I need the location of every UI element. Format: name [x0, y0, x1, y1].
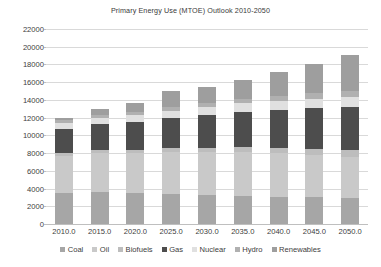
x-tick-label: 2050.0 — [338, 227, 361, 236]
bar-segment-oil[interactable] — [234, 152, 252, 195]
bar-column[interactable] — [126, 103, 144, 224]
bar-segment-gas[interactable] — [234, 112, 252, 147]
legend-item-oil[interactable]: Oil — [92, 245, 109, 254]
bar-segment-gas[interactable] — [341, 107, 359, 150]
y-tick-label: 12000 — [2, 113, 44, 122]
bar-segment-oil[interactable] — [126, 153, 144, 193]
bar-segment-coal[interactable] — [234, 196, 252, 224]
bar-segment-nuclear[interactable] — [91, 118, 109, 125]
legend-swatch-icon — [235, 247, 240, 252]
legend-label: Nuclear — [200, 245, 226, 254]
bar-segment-oil[interactable] — [162, 152, 180, 194]
bar-segment-coal[interactable] — [305, 197, 323, 224]
bar-segment-oil[interactable] — [341, 157, 359, 199]
bar-column[interactable] — [162, 91, 180, 224]
y-tick-label: 22000 — [2, 25, 44, 34]
y-tick-label: 20000 — [2, 42, 44, 51]
bar-segment-nuclear[interactable] — [341, 97, 359, 107]
y-tick-label: 6000 — [2, 166, 44, 175]
bar-segment-gas[interactable] — [91, 124, 109, 150]
bar-segment-oil[interactable] — [91, 153, 109, 192]
y-tick-label: 14000 — [2, 95, 44, 104]
bar-segment-gas[interactable] — [270, 110, 288, 148]
bar-column[interactable] — [55, 118, 73, 224]
legend-label: Coal — [68, 245, 84, 254]
legend-swatch-icon — [60, 247, 65, 252]
bar-segment-renewables[interactable] — [341, 55, 359, 91]
legend-swatch-icon — [92, 247, 97, 252]
x-tick-label: 2020.0 — [124, 227, 147, 236]
legend-label: Biofuels — [126, 245, 153, 254]
bar-segment-nuclear[interactable] — [234, 103, 252, 111]
bar-column[interactable] — [234, 80, 252, 224]
legend-label: Renewables — [279, 245, 321, 254]
bar-segment-renewables[interactable] — [126, 103, 144, 112]
y-tick-label: 0 — [2, 220, 44, 229]
legend-swatch-icon — [118, 247, 123, 252]
bar-segment-coal[interactable] — [55, 193, 73, 224]
y-tick-label: 2000 — [2, 202, 44, 211]
bar-segment-coal[interactable] — [126, 193, 144, 224]
bar-column[interactable] — [91, 109, 109, 224]
grid-line — [46, 47, 368, 48]
legend-swatch-icon — [192, 247, 197, 252]
y-tick-label: 4000 — [2, 184, 44, 193]
y-tick-label: 18000 — [2, 60, 44, 69]
legend-label: Oil — [100, 245, 109, 254]
legend-item-biofuels[interactable]: Biofuels — [118, 245, 153, 254]
plot-area: 2010.02015.02020.02025.02030.02035.02040… — [46, 29, 368, 224]
bar-segment-oil[interactable] — [305, 155, 323, 198]
bar-segment-nuclear[interactable] — [270, 101, 288, 110]
legend-item-gas[interactable]: Gas — [162, 245, 183, 254]
bar-segment-nuclear[interactable] — [126, 115, 144, 122]
x-tick-label: 2025.0 — [160, 227, 183, 236]
x-tick-label: 2045.0 — [303, 227, 326, 236]
legend-swatch-icon — [272, 247, 277, 252]
chart-title: Primary Energy Use (MTOE) Outlook 2010-2… — [0, 6, 381, 15]
bar-segment-renewables[interactable] — [162, 91, 180, 107]
bar-column[interactable] — [305, 64, 323, 224]
x-tick-label: 2015.0 — [88, 227, 111, 236]
x-tick-label: 2010.0 — [52, 227, 75, 236]
bar-segment-gas[interactable] — [126, 122, 144, 149]
bar-segment-nuclear[interactable] — [198, 107, 216, 115]
y-tick-label: 16000 — [2, 78, 44, 87]
bar-segment-gas[interactable] — [162, 118, 180, 148]
bar-segment-oil[interactable] — [55, 156, 73, 193]
bar-segment-nuclear[interactable] — [305, 99, 323, 108]
y-axis: 0200040006000800010000120001400016000180… — [0, 29, 44, 224]
bar-segment-gas[interactable] — [55, 129, 73, 153]
y-tick-label: 8000 — [2, 149, 44, 158]
bar-segment-renewables[interactable] — [270, 72, 288, 96]
legend-item-renewables[interactable]: Renewables — [272, 245, 321, 254]
legend-label: Gas — [169, 245, 183, 254]
bar-column[interactable] — [341, 55, 359, 224]
bar-segment-coal[interactable] — [91, 192, 109, 224]
bar-segment-coal[interactable] — [198, 195, 216, 224]
bar-segment-renewables[interactable] — [305, 64, 323, 94]
bar-segment-renewables[interactable] — [198, 87, 216, 103]
x-tick-label: 2040.0 — [267, 227, 290, 236]
legend-item-coal[interactable]: Coal — [60, 245, 83, 254]
y-tick-label: 10000 — [2, 131, 44, 140]
chart-container: Primary Energy Use (MTOE) Outlook 2010-2… — [0, 0, 381, 267]
legend-label: Hydro — [242, 245, 262, 254]
x-tick-label: 2030.0 — [195, 227, 218, 236]
bar-segment-renewables[interactable] — [234, 80, 252, 98]
bar-segment-oil[interactable] — [270, 153, 288, 196]
bar-segment-coal[interactable] — [341, 198, 359, 224]
chart-legend: CoalOilBiofuelsGasNuclearHydroRenewables — [0, 245, 381, 254]
legend-item-nuclear[interactable]: Nuclear — [192, 245, 226, 254]
grid-line — [46, 224, 368, 225]
bar-column[interactable] — [270, 72, 288, 224]
bar-segment-nuclear[interactable] — [162, 111, 180, 119]
bar-segment-coal[interactable] — [270, 197, 288, 224]
bar-column[interactable] — [198, 87, 216, 224]
bar-segment-gas[interactable] — [305, 108, 323, 149]
bar-segment-oil[interactable] — [198, 152, 216, 195]
legend-swatch-icon — [162, 247, 167, 252]
grid-line — [46, 29, 368, 30]
legend-item-hydro[interactable]: Hydro — [235, 245, 263, 254]
bar-segment-gas[interactable] — [198, 115, 216, 148]
bar-segment-coal[interactable] — [162, 194, 180, 224]
